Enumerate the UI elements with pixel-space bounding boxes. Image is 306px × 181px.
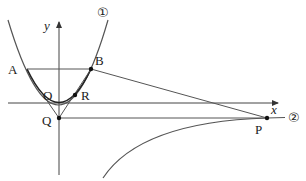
point-p-dot (265, 116, 269, 120)
curve-1-label: ① (97, 5, 109, 20)
point-b-dot (89, 67, 93, 71)
point-b-label: B (95, 53, 104, 68)
point-r-dot (73, 93, 77, 97)
curve-2-label: ② (288, 110, 300, 125)
point-q-dot (57, 116, 61, 120)
point-p-label: P (255, 122, 262, 137)
point-r-label: R (81, 88, 90, 103)
point-a-label: A (8, 62, 18, 77)
figure-canvas: y x O A B R Q P ① ② (0, 0, 306, 181)
x-axis-label: x (270, 102, 277, 117)
segment-bp (91, 69, 267, 118)
y-axis-label: y (42, 18, 50, 33)
origin-label: O (43, 88, 52, 103)
parabola-curve-1 (8, 20, 108, 105)
diagram: y x O A B R Q P ① ② (0, 0, 306, 181)
point-q-label: Q (42, 113, 52, 128)
